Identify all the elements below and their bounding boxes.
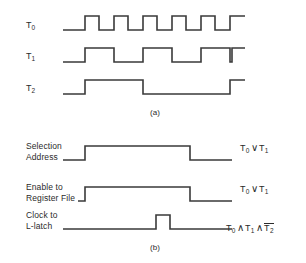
expr-0-term1-sub: 1 (265, 147, 269, 154)
caption-panel-b: (b) (135, 243, 175, 252)
expression-selection-address: T0∨T1 (240, 142, 269, 154)
clock-l-latch-line2: L-latch (26, 221, 52, 231)
enable-register-file-line1: Enable to (26, 182, 63, 192)
signal-label-selection-address: Selection Address (26, 141, 62, 162)
expr-2-operator0: ∧ (236, 222, 245, 233)
selection-address-line1: Selection (26, 141, 62, 151)
enable-register-file-line2: Register File (26, 193, 75, 203)
expr-2-term2-complement: T2 (264, 223, 274, 234)
caption-panel-a: (a) (135, 108, 175, 117)
expr-0-operator0: ∨ (250, 142, 259, 153)
expr-2-term2-sub: 2 (270, 227, 274, 234)
waveform-t1 (63, 48, 245, 62)
signal-label-clock-l-latch: Clock to L-latch (26, 210, 58, 231)
timing-diagram-figure: T0 T1 T2 (a) Selection Address Enable to… (0, 0, 306, 263)
waveform-enable-register-file (78, 187, 232, 201)
expression-enable-register-file: T0∨T1 (240, 183, 269, 195)
expr-2-operator1: ∧ (255, 222, 264, 233)
expr-1-term1-sub: 1 (265, 188, 269, 195)
selection-address-line2: Address (26, 152, 58, 162)
waveform-t0 (63, 16, 245, 30)
waveform-selection-address (63, 146, 232, 160)
signal-label-enable-register-file: Enable to Register File (26, 182, 75, 203)
expression-clock-l-latch: T0∧T1∧T2 (226, 222, 274, 234)
expr-1-operator0: ∨ (250, 183, 259, 194)
waveform-clock-l-latch (63, 215, 232, 229)
clock-l-latch-line1: Clock to (26, 210, 58, 220)
waveform-t2 (63, 80, 245, 94)
